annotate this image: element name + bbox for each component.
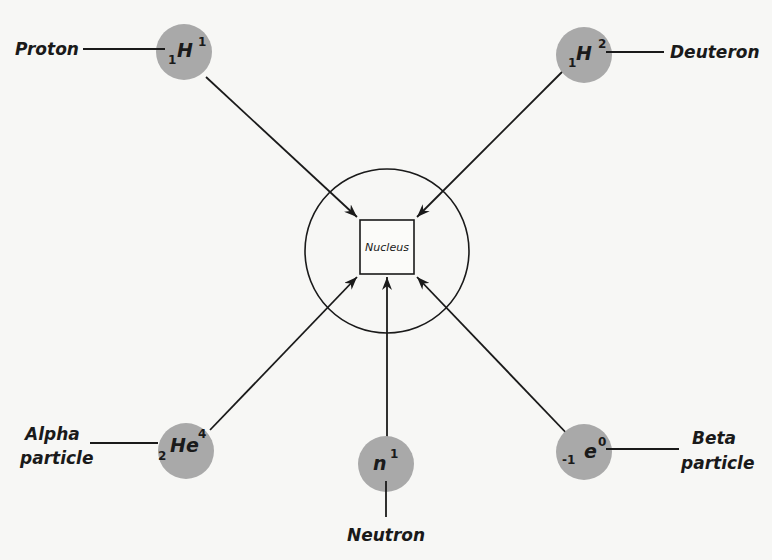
alpha-label-line2: particle — [19, 448, 93, 468]
alpha-symbol: He — [170, 434, 199, 456]
deuteron-particle: Deuteron 1 H 2 — [556, 27, 760, 83]
beta-atomic-number: -1 — [562, 453, 575, 467]
beta-mass-number: 0 — [598, 435, 606, 449]
beta-label-line2: particle — [680, 453, 754, 473]
proton-atomic-number: 1 — [168, 53, 176, 67]
alpha-arrow — [210, 277, 357, 430]
neutron-mass-number: 1 — [390, 447, 398, 461]
deuteron-mass-number: 2 — [598, 37, 606, 51]
nucleus-label: Nucleus — [365, 241, 409, 254]
proton-symbol: H — [177, 39, 193, 61]
proton-arrow — [206, 77, 357, 217]
deuteron-arrow — [417, 71, 563, 217]
beta-label-line1: Beta — [692, 428, 736, 448]
neutron-particle: Neutron n 1 — [347, 436, 425, 545]
alpha-label-line1: Alpha — [23, 424, 80, 444]
nuclear-bombardment-diagram: Nucleus Proton 1 H 1 Deuteron 1 H 2 Alph… — [0, 0, 772, 560]
alpha-particle: Alpha particle 2 He 4 — [19, 423, 214, 479]
beta-particle: Beta particle -1 e 0 — [556, 424, 754, 480]
neutron-label: Neutron — [347, 525, 425, 545]
alpha-atomic-number: 2 — [158, 449, 166, 463]
deuteron-label: Deuteron — [670, 42, 760, 62]
neutron-symbol: n — [373, 452, 387, 474]
beta-arrow — [417, 277, 573, 440]
proton-particle: Proton 1 H 1 — [15, 24, 212, 80]
proton-label: Proton — [15, 39, 79, 59]
beta-symbol: e — [584, 440, 597, 462]
alpha-mass-number: 4 — [198, 427, 206, 441]
proton-mass-number: 1 — [198, 35, 206, 49]
deuteron-symbol: H — [576, 42, 592, 64]
